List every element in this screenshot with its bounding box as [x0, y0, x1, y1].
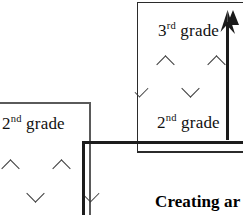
card-back-bottom-rule [137, 151, 243, 153]
upward-arrow-shaft [226, 22, 229, 140]
card-back-grade-label: 3rd grade [158, 21, 219, 41]
upward-arrow-icon [216, 8, 240, 38]
card-back-secondary-label: 2nd grade [157, 113, 220, 133]
card-back-secondary-ordinal: nd [166, 112, 177, 123]
card-back-grade-number: 3 [158, 21, 167, 40]
figure-caption-heading: Creating ar [155, 192, 240, 212]
card-left-mark-up-right [52, 159, 70, 177]
card-left-grade-word: grade [26, 114, 65, 133]
card-left-top-border [0, 102, 91, 104]
card-back-grade-ordinal: rd [167, 20, 176, 31]
foreground-page-left-rule [82, 141, 85, 215]
card-back-secondary-word: grade [181, 113, 220, 132]
card-left-grade-ordinal: nd [11, 113, 22, 124]
card-left-grade-number: 2 [2, 114, 11, 133]
foreground-page-top-rule [82, 141, 243, 144]
card-left-mark-down [26, 184, 44, 202]
card-left-grade-label: 2nd grade [2, 114, 65, 134]
card-back-secondary-number: 2 [157, 113, 166, 132]
card-back-grade-word: grade [180, 21, 219, 40]
figure-canvas: 3rd grade 2nd grade 2nd grade Creating a… [0, 0, 243, 215]
card-left-mark-up-left [1, 159, 19, 177]
